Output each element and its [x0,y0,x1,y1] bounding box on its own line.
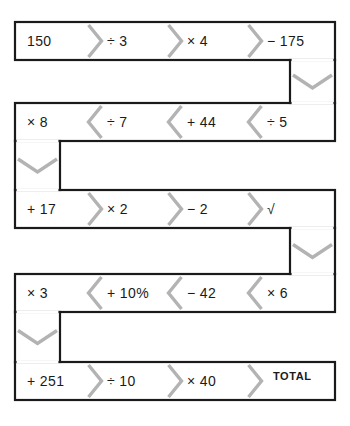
operation-label: × 4 [187,33,208,49]
seam-mask [17,360,59,363]
seam-mask [292,272,334,275]
band-connector [290,228,335,274]
operation-label: × 3 [27,285,48,301]
start-value-label: 150 [27,33,52,49]
seam-mask [17,139,59,142]
band-connector [15,312,60,362]
operation-label: √ [267,201,275,217]
operation-label: − 42 [187,285,216,301]
operation-label: × 6 [267,285,288,301]
seam-mask [17,310,59,313]
number-chain-diagram: 150÷ 3× 4− 175× 8÷ 7+ 44÷ 5+ 17× 2− 2√× … [0,0,350,426]
worksheet-sheet: 150÷ 3× 4− 175× 8÷ 7+ 44÷ 5+ 17× 2− 2√× … [0,0,350,426]
operation-label: × 2 [107,201,128,217]
operation-label: ÷ 10 [107,373,136,389]
operation-label: + 44 [187,114,216,130]
operation-label: ÷ 7 [107,114,128,130]
band-outline [15,22,335,400]
operation-label: − 175 [267,33,304,49]
operation-label: × 40 [187,373,216,389]
operation-label: + 10% [107,285,149,301]
band-connector [15,141,60,190]
seam-mask [292,226,334,229]
seam-mask [17,188,59,191]
total-label: TOTAL [273,370,312,382]
operation-label: + 251 [27,373,64,389]
operation-label: − 2 [187,201,208,217]
seam-mask [292,58,334,61]
operation-label: ÷ 5 [267,114,288,130]
operation-label: + 17 [27,201,56,217]
operation-label: ÷ 3 [107,33,128,49]
seam-mask [292,101,334,104]
operation-label: × 8 [27,114,48,130]
band-connector [290,60,335,103]
band-row [15,190,335,228]
